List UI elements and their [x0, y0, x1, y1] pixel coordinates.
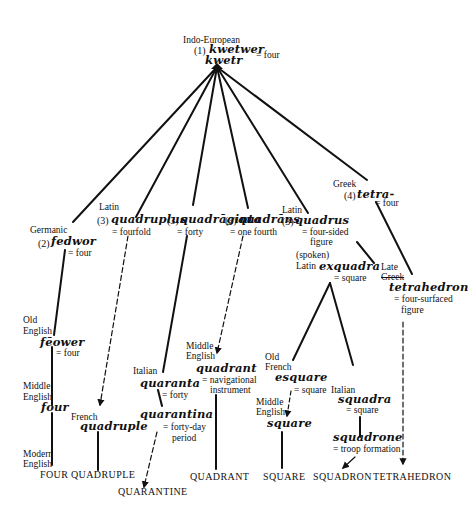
- edge-root-greek: [217, 67, 367, 180]
- result-squadron: SQUADRON: [313, 472, 372, 482]
- quadrans-gloss: = one fourth: [230, 228, 277, 238]
- quadrans-number: (3): [225, 216, 237, 226]
- square-word: square: [267, 418, 312, 430]
- quarantina-gloss-1: = forty-day: [163, 423, 206, 433]
- quadrus-number: (3): [282, 217, 294, 227]
- root-number: (1): [194, 46, 206, 56]
- result-tetrahedron: TETRAHEDRON: [373, 472, 451, 482]
- esquare-word: esquare: [275, 372, 327, 384]
- quadraginta-number: (3): [167, 216, 179, 226]
- quadrus-gloss-2: figure: [310, 238, 333, 248]
- feower-word: fēower: [40, 337, 84, 349]
- quadraginta-gloss: = forty: [177, 228, 203, 238]
- tetrahedron-gloss-2: figure: [401, 306, 424, 316]
- quadrant-word: quadrant: [196, 363, 257, 375]
- edge-root-quadrans: [217, 67, 248, 208]
- middle-english-label-1: Middle: [23, 382, 50, 392]
- root-word-kwetr: kwetr: [205, 55, 243, 67]
- feower-gloss: = four: [56, 349, 80, 359]
- quadruplus-gloss: = fourfold: [112, 228, 151, 238]
- four-word: four: [41, 402, 69, 414]
- edge-quadraginta-quaranta: [163, 236, 187, 372]
- quaranta-gloss: = forty: [162, 391, 188, 401]
- edge-esquare-square: [287, 391, 291, 416]
- greek-language: Greek: [333, 180, 356, 190]
- esquare-gloss: = square: [294, 386, 327, 396]
- quadruplus-number: (3): [97, 216, 109, 226]
- edge-quadruplus-quadruple: [100, 236, 128, 405]
- edge-exquadra-esquare: [293, 283, 330, 360]
- spoken-latin-2: Latin: [296, 262, 316, 272]
- squadra-word: squadra: [338, 394, 391, 406]
- edge-fedwor-feower: [54, 250, 65, 335]
- edge-squadrone-result: [343, 457, 355, 468]
- fedwor-word: fedwor: [51, 236, 96, 248]
- result-four: FOUR: [40, 470, 68, 480]
- quadrus-word: quadrus: [295, 215, 349, 227]
- edge-exquadra-squadra: [330, 283, 353, 365]
- exquadra-gloss: = square: [334, 274, 367, 284]
- tetrahedron-gloss-1: = four-surfaced: [394, 295, 453, 305]
- fedwor-number: (2): [38, 239, 50, 249]
- tetra-gloss: = four: [375, 199, 399, 209]
- edge-quadrans-quadrant: [217, 236, 243, 353]
- tetrahedron-word: tetrahedron: [389, 282, 468, 294]
- result-quarantine: QUARANTINE: [118, 487, 188, 497]
- quarantina-word: quarantina: [140, 409, 213, 421]
- fedwor-gloss: = four: [68, 249, 92, 259]
- tetra-number: (4): [344, 191, 356, 201]
- result-quadruple: QUADRUPLE: [71, 470, 135, 480]
- quaranta-word: quaranta: [140, 378, 200, 390]
- edge-root-quadrus: [217, 67, 308, 213]
- squadrone-word: squadrone: [333, 432, 403, 444]
- result-quadrant: QUADRANT: [190, 472, 249, 482]
- old-english-label-1: Old: [23, 316, 37, 326]
- result-square: SQUARE: [263, 472, 305, 482]
- quarantina-gloss-2: period: [172, 434, 196, 444]
- quadrant-gloss-2: instrument: [210, 386, 251, 396]
- exquadra-word: exquadra: [319, 261, 380, 273]
- squadra-gloss: = square: [346, 406, 379, 416]
- squadrone-gloss: = troop formation: [333, 445, 401, 455]
- quadruple-word: quadruple: [80, 421, 148, 433]
- root-gloss: = four: [256, 51, 280, 61]
- edge-quarantina-result: [144, 432, 157, 487]
